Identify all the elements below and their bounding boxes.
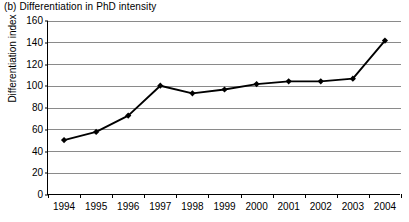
y-axis-tick-label: 60 <box>32 125 43 135</box>
y-axis-title: Differentiation index <box>7 0 18 119</box>
y-axis-tick-label: 40 <box>32 147 43 157</box>
data-point-marker <box>286 78 292 84</box>
x-axis-tick-label: 2004 <box>374 201 396 212</box>
x-axis-tick-label: 1998 <box>181 201 203 212</box>
data-point-marker <box>189 90 195 96</box>
x-axis-tick-label: 1996 <box>117 201 139 212</box>
x-axis-tick-label: 1994 <box>53 201 75 212</box>
y-axis-tick-label: 20 <box>32 168 43 178</box>
x-axis-tick-label: 1999 <box>213 201 235 212</box>
x-axis-tick-label: 2002 <box>310 201 332 212</box>
chart-title: (b) Differentiation in PhD intensity <box>4 1 156 13</box>
chart-figure: (b) Differentiation in PhD intensity Dif… <box>0 0 409 222</box>
data-point-marker <box>253 81 259 87</box>
data-point-marker <box>93 129 99 135</box>
y-axis-tick-label: 140 <box>26 38 43 48</box>
plot-wrap: 020406080100120140160 199419951996199719… <box>47 21 400 195</box>
y-axis-tick-label: 80 <box>32 103 43 113</box>
x-axis-tick-label: 2000 <box>245 201 267 212</box>
data-point-marker <box>221 86 227 92</box>
x-axis-tick-mark <box>401 194 402 198</box>
data-point-marker <box>318 78 324 84</box>
y-axis-tick-label: 100 <box>26 81 43 91</box>
x-axis-tick-label: 1997 <box>149 201 171 212</box>
x-axis-tick-label: 1995 <box>85 201 107 212</box>
y-axis-tick-label: 0 <box>37 190 43 200</box>
plot-area: 020406080100120140160 199419951996199719… <box>47 21 400 195</box>
line-series <box>48 21 401 195</box>
y-axis-tick-label: 120 <box>26 60 43 70</box>
x-axis-tick-label: 2003 <box>342 201 364 212</box>
x-axis-tick-label: 2001 <box>278 201 300 212</box>
data-point-marker <box>61 137 67 143</box>
y-axis-tick-label: 160 <box>26 16 43 26</box>
